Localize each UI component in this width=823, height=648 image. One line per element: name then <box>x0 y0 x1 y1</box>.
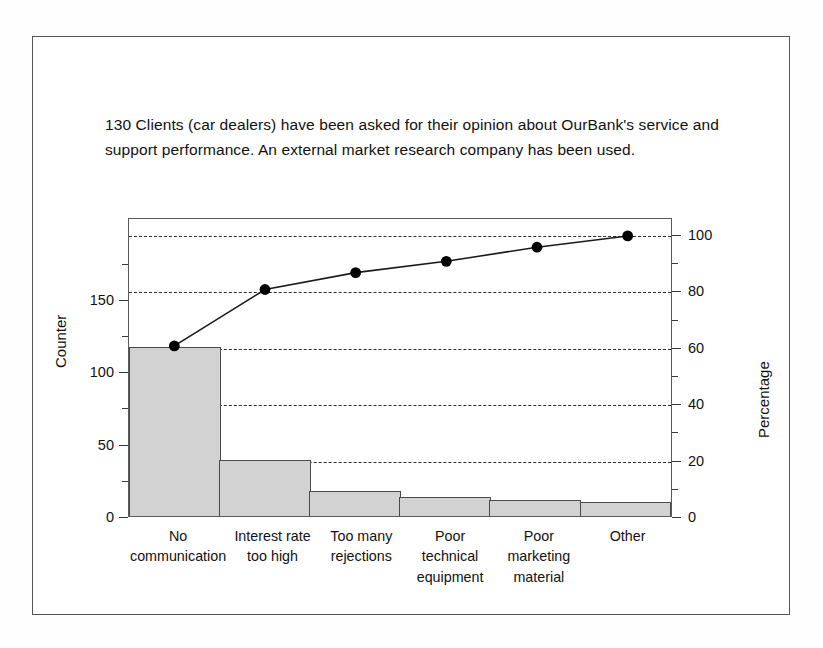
y-tick-right-minor <box>672 489 678 490</box>
cumulative-line-series <box>129 219 673 518</box>
x-axis-label-line: material <box>496 567 581 587</box>
x-axis-label-line: too high <box>230 546 315 566</box>
y-tick-right-minor <box>672 376 678 377</box>
x-axis-label-line: rejections <box>319 546 404 566</box>
y-tick-right <box>672 461 681 462</box>
y-tick-label-right: 100 <box>688 227 712 243</box>
y-tick-label-right: 80 <box>688 283 704 299</box>
y-tick-right <box>672 348 681 349</box>
x-axis-label-line: Poor <box>496 526 581 546</box>
x-axis-label-line: marketing <box>496 546 581 566</box>
y-tick-right <box>672 235 681 236</box>
y-tick-left-minor <box>122 264 128 265</box>
y-axis-left-title: Counter <box>52 315 69 368</box>
x-axis-label-line: No <box>130 526 226 546</box>
y-tick-label-right: 0 <box>688 509 696 525</box>
y-axis-right-title: Percentage <box>755 361 772 438</box>
y-tick-left-minor <box>122 336 128 337</box>
x-axis-label-line: Too many <box>319 526 404 546</box>
data-point-marker <box>532 242 543 253</box>
data-point-marker <box>350 267 361 278</box>
y-tick-right-minor <box>672 432 678 433</box>
plot-area <box>128 218 672 517</box>
y-tick-left <box>119 517 128 518</box>
data-point-marker <box>260 284 271 295</box>
x-axis-label: Other <box>583 526 672 587</box>
y-tick-right <box>672 291 681 292</box>
y-tick-label-right: 40 <box>688 396 704 412</box>
x-axis-label-line: Other <box>585 526 670 546</box>
y-tick-label-right: 20 <box>688 453 704 469</box>
y-tick-left-minor <box>122 481 128 482</box>
x-axis-label: Too manyrejections <box>317 526 406 587</box>
y-tick-label-right: 60 <box>688 340 704 356</box>
x-axis-label: Poormarketingmaterial <box>494 526 583 587</box>
y-tick-label-left: 150 <box>90 292 114 308</box>
y-tick-left <box>119 372 128 373</box>
x-axis-label-line: equipment <box>408 567 493 587</box>
x-axis-label-line: Interest rate <box>230 526 315 546</box>
x-axis-label-line: communication <box>130 546 226 566</box>
y-tick-label-left: 100 <box>90 364 114 380</box>
x-axis-label: Poortechnicalequipment <box>406 526 495 587</box>
y-tick-right-minor <box>672 320 678 321</box>
x-axis-labels: NocommunicationInterest ratetoo highToo … <box>128 526 672 587</box>
data-point-marker <box>622 231 633 242</box>
cumulative-line <box>174 236 627 346</box>
x-axis-label: Interest ratetoo high <box>228 526 317 587</box>
y-tick-left <box>119 445 128 446</box>
y-tick-right-minor <box>672 263 678 264</box>
y-tick-left <box>119 300 128 301</box>
y-tick-right <box>672 404 681 405</box>
y-tick-right <box>672 517 681 518</box>
y-tick-left-minor <box>122 408 128 409</box>
y-tick-label-left: 0 <box>106 509 114 525</box>
pareto-chart: 050100150 020406080100 Counter Percentag… <box>0 0 823 648</box>
x-axis-label: Nocommunication <box>128 526 228 587</box>
data-point-marker <box>441 256 452 267</box>
x-axis-label-line: Poor <box>408 526 493 546</box>
x-axis-label-line: technical <box>408 546 493 566</box>
data-point-marker <box>169 341 180 352</box>
pareto-chart-page: 130 Clients (car dealers) have been aske… <box>0 0 823 648</box>
y-tick-label-left: 50 <box>98 437 114 453</box>
